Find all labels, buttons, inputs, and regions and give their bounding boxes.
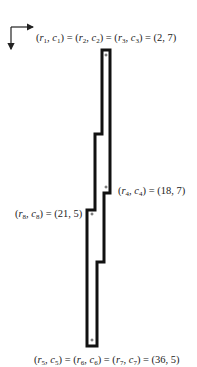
- label-r8-value: (21, 5): [54, 208, 82, 219]
- label-top-corner: (r1, c1) = (r2, c2) = (r3, c3) = (2, 7): [36, 33, 176, 45]
- label-r4: (r4, c4) = (18, 7): [118, 186, 185, 198]
- plus-marker-top: [105, 54, 108, 57]
- label-bottom-value: (36, 5): [152, 354, 180, 365]
- plus-marker-bottom: [91, 339, 94, 342]
- plus-marker-r4: [105, 186, 108, 189]
- contour-outline: [87, 50, 110, 346]
- label-r4-value: (18, 7): [157, 185, 185, 196]
- label-top-value: (2, 7): [154, 32, 177, 43]
- plus-marker-r8: [91, 213, 94, 216]
- axes-icon: [11, 27, 33, 49]
- label-r8: (r8, c8) = (21, 5): [15, 209, 82, 221]
- label-bottom: (r5, c5) = (r6, c6) = (r7, c7) = (36, 5): [34, 355, 180, 367]
